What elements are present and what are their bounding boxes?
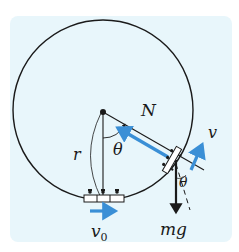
- velocity-label: v: [208, 123, 217, 142]
- normal-force-label: N: [140, 100, 157, 120]
- radius-bracket: [91, 113, 102, 198]
- angle-theta-label: θ: [113, 140, 123, 159]
- loop-diagram: N θ r v θ v0 mg: [0, 0, 239, 252]
- angle-theta-car-label: θ: [179, 174, 188, 190]
- radius-label: r: [73, 145, 82, 164]
- car-side: [159, 145, 184, 176]
- initial-velocity-label: v0: [91, 221, 108, 244]
- normal-force-arrow: [118, 128, 168, 157]
- car-bottom: [84, 189, 124, 202]
- gravity-label: mg: [160, 219, 187, 239]
